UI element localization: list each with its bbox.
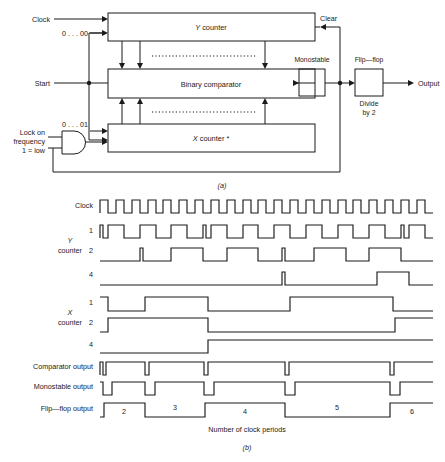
timing-group-x-italic: X — [67, 308, 74, 317]
period-marker-2: 2 — [122, 407, 126, 416]
timing-group-y-rest: counter — [58, 246, 83, 255]
signal-clock-label: Clock — [32, 15, 50, 24]
arrow-y-bus-2-icon — [137, 63, 143, 69]
arrow-preset-y-icon — [102, 30, 108, 36]
signal-start-label: Start — [35, 79, 50, 88]
arrow-preset-x-icon — [102, 128, 108, 134]
waveform-x-counter-bit-4 — [100, 340, 433, 353]
waveform-x-counter-bit-2 — [100, 318, 433, 332]
timing-group-x-rest: counter — [58, 318, 83, 327]
arrow-monostable-in-icon — [293, 80, 299, 86]
waveform-y-counter-bit-4 — [100, 272, 433, 285]
waveform-comparator-output — [100, 362, 433, 375]
waveform-clock — [100, 200, 433, 213]
signal-lock-line1: Lock on — [20, 128, 45, 137]
timing-label-y2: 2 — [89, 246, 93, 255]
waveform-y-counter-bit-1 — [100, 225, 433, 238]
wire-clear-feedback — [326, 27, 340, 83]
waveform-monostable-output — [100, 382, 433, 395]
timing-diagram: Clock Y counter 1 2 4 X counter 1 2 4 Co… — [33, 200, 433, 452]
arrow-clock-icon — [102, 16, 108, 22]
axis-caption: Number of clock periods — [208, 425, 286, 434]
block-x-counter-label: X counter * — [192, 134, 230, 143]
block-diagram: Y counter Binary comparator X counter * … — [13, 13, 439, 190]
period-marker-5: 5 — [335, 403, 339, 412]
waveform-flip-flop-output — [100, 403, 433, 417]
arrow-output-icon — [408, 80, 414, 86]
arrow-x-bus-1-icon — [119, 98, 125, 104]
timing-label-clock: Clock — [75, 201, 93, 210]
timing-label-monostable: Monostable output — [34, 382, 93, 391]
block-flip-flop-sub1: Divide — [360, 100, 379, 107]
period-marker-6: 6 — [410, 407, 414, 416]
timing-group-y-italic: Y — [68, 236, 74, 245]
timing-label-y1: 1 — [89, 226, 93, 235]
block-flip-flop-sub2: by 2 — [363, 109, 376, 117]
arrow-y-bus-n-icon — [262, 63, 268, 69]
waveform-x-counter-bit-1 — [100, 297, 433, 311]
and-gate-body — [62, 131, 86, 154]
wire-bottom-feedback — [53, 83, 340, 172]
arrow-y-bus-1-icon — [119, 63, 125, 69]
timing-label-flipflop: Flip—flop output — [41, 404, 93, 413]
and-gate[interactable] — [48, 131, 108, 154]
signal-preset-x-label: 0 . . . 01 — [62, 120, 88, 129]
arrow-clear-icon — [320, 24, 326, 30]
signal-lock-line3: 1 = low — [22, 146, 46, 155]
caption-part-a: (a) — [218, 181, 227, 190]
period-marker-3: 3 — [173, 403, 177, 412]
block-y-counter-label: Y counter — [195, 23, 227, 32]
timing-label-x4: 4 — [89, 340, 93, 349]
arrow-x-bus-2-icon — [137, 98, 143, 104]
signal-output-label: Output — [418, 79, 440, 88]
timing-label-x2: 2 — [89, 318, 93, 327]
block-monostable-label: Monostable — [294, 56, 329, 63]
block-flip-flop[interactable] — [355, 69, 383, 96]
signal-preset-y-label: 0 . . . 00 — [62, 29, 88, 38]
timing-label-comparator: Comparator output — [33, 362, 93, 371]
signal-lock-line2: frequency — [13, 137, 45, 146]
timing-label-y4: 4 — [89, 270, 93, 279]
arrow-x-bus-n-icon — [262, 98, 268, 104]
caption-part-b: (b) — [243, 443, 252, 452]
period-marker-4: 4 — [243, 407, 247, 416]
waveform-y-counter-bit-2 — [100, 248, 433, 261]
block-binary-comparator-label: Binary comparator — [181, 80, 242, 89]
signal-clear-label: Clear — [320, 14, 338, 23]
timing-label-x1: 1 — [89, 298, 93, 307]
block-flip-flop-label: Flip—flop — [355, 56, 384, 64]
arrow-flipflop-in-icon — [349, 80, 355, 86]
figure-container: Y counter Binary comparator X counter * … — [0, 0, 445, 462]
